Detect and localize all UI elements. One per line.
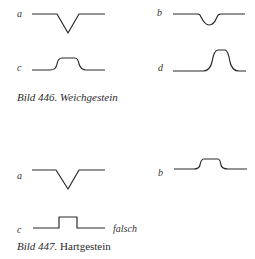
caption-446-text: Weichgestein	[60, 91, 118, 103]
label-447-a: a	[17, 171, 22, 181]
profile-447-c	[33, 217, 105, 228]
profile-446-c	[32, 58, 105, 70]
caption-447: Bild 447. Hartgestein	[17, 241, 111, 252]
profile-diagrams	[0, 0, 255, 259]
profile-447-b	[174, 159, 247, 169]
label-446-c: c	[17, 63, 21, 73]
caption-446-prefix: Bild 446.	[17, 91, 57, 103]
label-446-d: d	[158, 63, 163, 73]
label-447-b: b	[158, 168, 163, 178]
profile-446-d	[173, 50, 246, 71]
profile-446-b	[173, 14, 245, 25]
caption-447-text: Hartgestein	[60, 240, 111, 252]
label-446-b: b	[157, 8, 162, 18]
note-falsch: falsch	[113, 224, 137, 234]
label-447-c: c	[17, 225, 21, 235]
caption-446: Bild 446. Weichgestein	[17, 92, 118, 103]
profile-447-a	[32, 170, 105, 189]
label-446-a: a	[17, 9, 22, 19]
profile-446-a	[32, 14, 105, 33]
caption-447-prefix: Bild 447.	[17, 240, 57, 252]
